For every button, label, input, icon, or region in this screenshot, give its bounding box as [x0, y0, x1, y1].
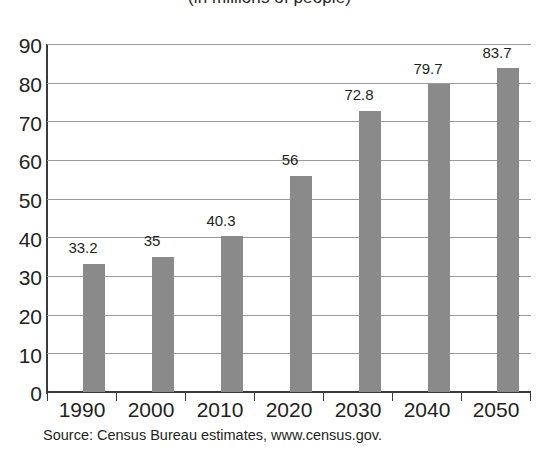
y-tick-label: 50 — [2, 190, 42, 211]
bar-2050[interactable] — [497, 68, 519, 392]
x-tick-label-2030: 2030 — [318, 399, 398, 420]
y-axis-tick-labels: 90 80 70 60 50 40 30 20 10 0 — [0, 0, 42, 452]
source-note: Source: Census Bureau estimates, www.cen… — [43, 428, 382, 443]
x-tick-label-2040: 2040 — [387, 399, 467, 420]
x-tick-label-2050: 2050 — [456, 399, 536, 420]
bar-value-label: 83.7 — [467, 45, 527, 60]
y-tick-label: 70 — [2, 113, 42, 134]
bar-value-label: 35 — [122, 233, 182, 248]
y-tick-label: 60 — [2, 151, 42, 172]
gridline — [47, 44, 531, 45]
y-tick-label: 20 — [2, 306, 42, 327]
gridline — [47, 237, 531, 238]
bar-value-label: 56 — [260, 152, 320, 167]
bar-1990[interactable] — [83, 264, 105, 392]
y-tick-label: 40 — [2, 229, 42, 250]
bar-value-label: 33.2 — [53, 240, 113, 255]
bar-value-label: 40.3 — [191, 213, 251, 228]
x-tick-label-1990: 1990 — [42, 399, 122, 420]
bar-chart-figure: (in millions of people) 90 80 70 60 50 4… — [0, 0, 539, 452]
gridline — [47, 315, 531, 316]
bar-2040[interactable] — [428, 84, 450, 392]
gridline — [47, 276, 531, 277]
bar-2030[interactable] — [359, 111, 381, 392]
bar-2020[interactable] — [290, 176, 312, 393]
bar-2000[interactable] — [152, 257, 174, 392]
bar-2010[interactable] — [221, 236, 243, 392]
gridline — [47, 353, 531, 354]
gridline — [47, 121, 531, 122]
y-tick-label: 10 — [2, 345, 42, 366]
gridline — [47, 83, 531, 84]
y-tick-label: 80 — [2, 74, 42, 95]
y-tick-label: 30 — [2, 267, 42, 288]
x-tick-label-2020: 2020 — [249, 399, 329, 420]
bar-value-label: 72.8 — [329, 87, 389, 102]
y-tick-label: 90 — [2, 35, 42, 56]
x-axis-baseline — [47, 391, 531, 393]
x-tick-label-2000: 2000 — [111, 399, 191, 420]
chart-subtitle: (in millions of people) — [0, 0, 539, 8]
bar-value-label: 79.7 — [398, 61, 458, 76]
y-tick-label: 0 — [2, 383, 42, 404]
x-tick-label-2010: 2010 — [180, 399, 260, 420]
gridline — [47, 199, 531, 200]
plot-area — [47, 44, 531, 392]
